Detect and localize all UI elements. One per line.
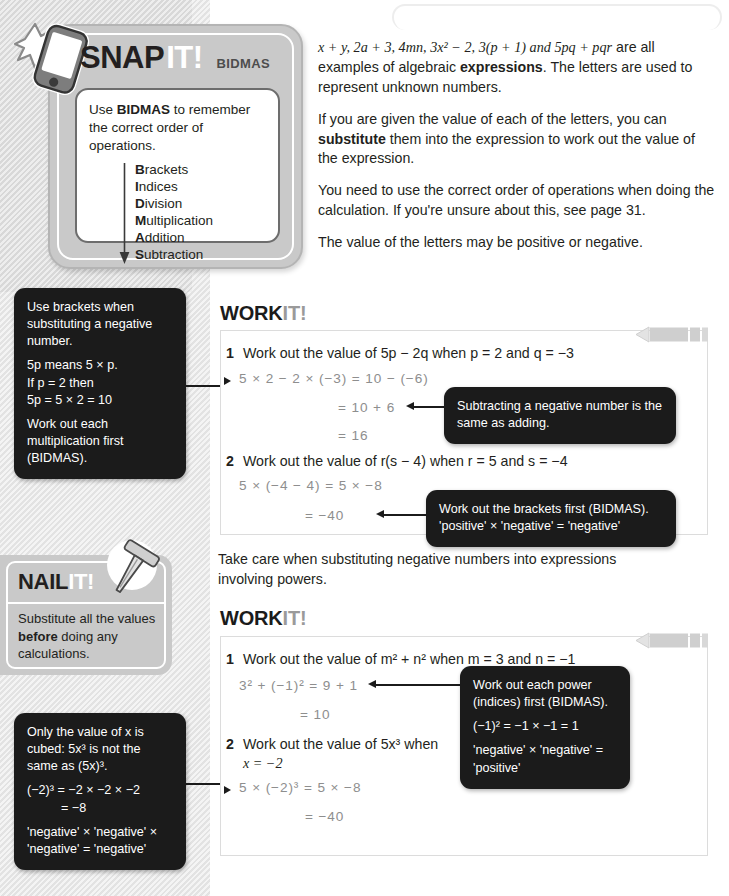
bidmas-intro-bold: BIDMAS [117,102,170,117]
note-brackets-line-2: 5p means 5 × p. [27,357,173,374]
body-p2-a: If you are given the value of each of th… [318,111,667,127]
note-tip-brackets-first: Work out the brackets first (BIDMAS). 'p… [426,490,676,547]
work-it-title-2-a: WORK [220,607,283,629]
workit1-q1-marker [224,377,231,385]
bidmas-list: Brackets Indices Division Multiplication… [135,161,266,263]
workit2-q2-working-line-2: = −40 [305,809,344,824]
bidmas-rest: rackets [145,162,189,177]
snap-it-panel: SNAP IT! BIDMAS Use BIDMAS to remember t… [48,24,303,269]
bidmas-initial: D [135,196,145,211]
bidmas-item: Indices [135,178,266,195]
workit1-q1-working-line-3: = 16 [338,428,368,443]
work-it-title-1-b: IT! [283,302,307,324]
tip3-line-1: Work out each power (indices) first (BID… [473,677,617,711]
bidmas-item: Subtraction [135,246,266,263]
tip2-line-1-text: Work out the brackets first (BIDMAS). [439,502,649,516]
note-brackets-line-4: 5p = 5 × 2 = 10 [27,392,173,409]
nail-body-text: Substitute all the values before doing a… [18,610,158,663]
note-tip-powers-first: Work out each power (indices) first (BID… [460,666,630,789]
tip3-line-2: (−1)² = −1 × −1 = 1 [473,718,617,735]
workit1-q1-working-line-2: = 10 + 6 [338,400,395,415]
bidmas-initial: A [135,230,145,245]
note-use-brackets: Use brackets when substituting a negativ… [14,288,186,479]
workit1-question-2: 2 Work out the value of r(s − 4) when r … [226,452,696,471]
nail-icon [92,539,168,611]
workit2-q1-working-line-2: = 10 [300,707,330,722]
bidmas-item: Multiplication [135,212,266,229]
bidmas-rest: ultiplication [146,213,213,228]
body-paragraph-2: If you are given the value of each of th… [318,110,716,170]
bidmas-rest: ddition [145,230,185,245]
body-paragraph-3: You need to use the correct order of ope… [318,181,716,221]
bidmas-initial: S [135,247,144,262]
bidmas-rest: ndices [139,179,178,194]
workit1-q1-number: 1 [226,344,234,363]
body-p2-bold: substitute [318,131,386,147]
top-bleed-rule [392,4,722,30]
nail-it-header: NAIL IT! [18,569,94,595]
body-p1-bold: expressions [460,59,543,75]
pencil-icon [636,632,710,649]
workit2-q1-number: 1 [226,650,234,669]
tip2-leader-arrow [376,510,384,518]
snap-it-header: SNAP IT! BIDMAS [80,42,270,73]
bidmas-initial: M [135,213,146,228]
note-brackets-line-3: If p = 2 then [27,375,173,392]
note-brackets-line-5: Work out each multiplication first (BIDM… [27,416,173,467]
nail-paragraph: Substitute all the values before doing a… [18,610,158,663]
workit2-q1-working-line-1: 3² + (−1)² = 9 + 1 [239,678,358,693]
workit2-q2-text: Work out the value of 5x³ whenx = −2 [243,735,438,774]
bidmas-initial: B [135,162,145,177]
tip2-leader-line [382,514,426,516]
body-paragraph-4: The value of the letters may be positive… [318,233,716,253]
bidmas-item: Addition [135,229,266,246]
tip2-line-2: 'positive' × 'negative' = 'negative' [439,518,663,535]
bidmas-intro-lead: Use [89,102,117,117]
intro-body-copy: x + y, 2a + 3, 4mn, 3x² − 2, 3(p + 1) an… [318,38,716,253]
note-brackets-line-1: Use brackets when substituting a negativ… [27,299,173,350]
nail-body-bold: before [18,629,58,644]
tip3-line-3: 'negative' × 'negative' = 'positive' [473,742,617,776]
bidmas-intro: Use BIDMAS to remember the correct order… [89,101,266,154]
note-tip-subtracting-negative: Subtracting a negative number is the sam… [444,387,676,444]
bidmas-list-wrapper: Brackets Indices Division Multiplication… [89,161,266,263]
note-cubed-line-2: (−2)³ = −2 × −2 × −2 [27,782,173,799]
note-only-x-cubed: Only the value of x is cubed: 5x³ is not… [14,713,186,870]
down-arrow-icon [119,163,130,264]
workit2-q2-working-line-1: 5 × (−2)³ = 5 × −8 [239,780,361,795]
bidmas-rest: ubtraction [144,247,203,262]
between-paragraph: Take care when substituting negative num… [218,550,648,590]
note-cubed-line-4: 'negative' × 'negative' × 'negative' = '… [27,824,173,858]
workit1-q1-working-line-1: 5 × 2 − 2 × (−3) = 10 − (−6) [239,371,429,386]
workit2-q2-text-line-2: x = −2 [243,755,283,771]
nail-brand-suffix: IT! [68,569,94,595]
note-cubed-line-1: Only the value of x is cubed: 5x³ is not… [27,724,173,775]
work-it-title-1: WORKIT! [220,302,306,325]
tip1-leader-line [412,406,444,408]
workit2-q2-number: 2 [226,735,234,774]
workit1-question-1: 1 Work out the value of 5p − 2q when p =… [226,344,696,363]
workit1-q2-number: 2 [226,452,234,471]
bidmas-item: Division [135,195,266,212]
workit1-q2-working-line-2: = −40 [305,508,344,523]
between-panels-copy: Take care when substituting negative num… [218,550,648,590]
workit1-q1-text: Work out the value of 5p − 2q when p = 2… [243,344,574,363]
tip3-leader-line [374,684,460,686]
work-it-title-1-a: WORK [220,302,283,324]
bidmas-card: Use BIDMAS to remember the correct order… [75,88,280,243]
workit1-q2-working-line-1: 5 × (−4 − 4) = 5 × −8 [239,478,383,493]
work-it-title-2: WORKIT! [220,607,306,630]
nail-body-a: Substitute all the values [18,611,155,626]
body-paragraph-1: x + y, 2a + 3, 4mn, 3x² − 2, 3(p + 1) an… [318,38,716,98]
workit2-question-1: 1 Work out the value of m² + n² when m =… [226,650,696,669]
workit2-question-2: 2 Work out the value of 5x³ whenx = −2 [226,735,441,774]
bidmas-rest: ivision [145,196,183,211]
workit2-q2-marker [224,786,231,794]
tip2-line-1: Work out the brackets first (BIDMAS). [439,501,663,518]
note-cubed-line-3: = −8 [27,800,173,817]
workit1-q2-text: Work out the value of r(s − 4) when r = … [243,452,568,471]
snap-brand-suffix: IT! [166,42,202,73]
workit2-q2-text-line-1: Work out the value of 5x³ when [243,736,438,752]
tip1-line-1: Subtracting a negative number is the sam… [457,398,663,432]
pencil-icon [636,326,710,343]
